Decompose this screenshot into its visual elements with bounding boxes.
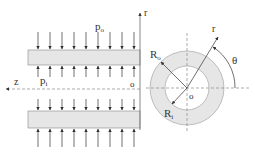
svg-text:Ro: Ro <box>150 48 161 62</box>
r-axis-label: r <box>144 7 148 18</box>
origin-label-left: o <box>130 79 135 89</box>
outer-radius-subscript: o <box>157 54 161 62</box>
cross-section: Ro Ri r θ o <box>146 23 250 132</box>
svg-text:po: po <box>95 20 105 34</box>
longitudinal-section: po pi z r o <box>6 7 148 147</box>
inner-pressure-arrows-top <box>38 66 134 77</box>
outer-pressure-subscript: o <box>101 26 105 34</box>
origin-label-right: o <box>189 91 194 101</box>
radial-coordinate-label: r <box>212 23 216 34</box>
bottom-wall <box>28 111 140 128</box>
z-axis-label: z <box>14 76 19 87</box>
theta-label: θ <box>232 54 237 66</box>
inner-pressure-subscript: i <box>46 80 48 88</box>
cylinder-diagram: po pi z r o Ro Ri r θ o <box>0 0 255 156</box>
inner-radius-subscript: i <box>171 113 173 121</box>
svg-text:pi: pi <box>40 74 48 88</box>
inner-pressure-arrows-bottom <box>38 99 134 110</box>
outer-pressure-arrows-bottom <box>38 129 134 147</box>
outer-pressure-arrows-top <box>38 32 134 49</box>
top-wall <box>28 50 140 65</box>
